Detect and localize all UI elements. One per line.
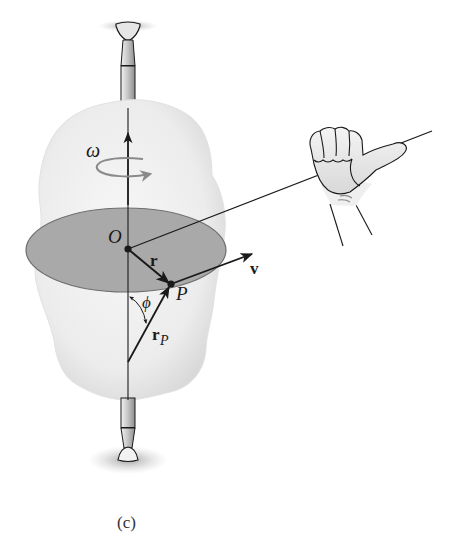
- right-hand-icon: [310, 127, 406, 246]
- v-label: v: [250, 259, 259, 278]
- rP-label: r: [152, 325, 160, 344]
- origin-label: O: [108, 226, 122, 247]
- bottom-bearing: [118, 398, 138, 462]
- point-p: [167, 280, 174, 287]
- phi-label: ϕ: [142, 293, 151, 312]
- rP-main: r: [152, 325, 160, 344]
- rotating-body-diagram: ω O r P v ϕ r P (c): [0, 0, 454, 540]
- omega-label: ω: [86, 139, 100, 161]
- figure-caption: (c): [117, 513, 136, 532]
- rP-subscript: P: [159, 333, 169, 348]
- top-bearing: [98, 20, 158, 66]
- p-label: P: [175, 283, 188, 304]
- r-label: r: [150, 251, 158, 270]
- origin-point: [124, 245, 131, 252]
